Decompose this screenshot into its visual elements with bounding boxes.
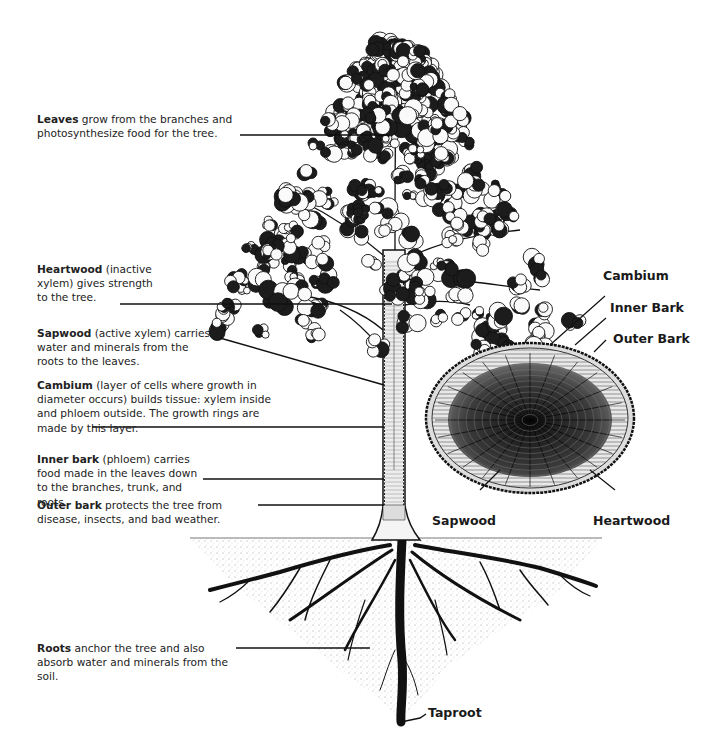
annotation-heartwood: Heartwood (inactive xylem) gives strengt… <box>37 262 157 305</box>
annotation-sapwood: Sapwood (active xylem) carries water and… <box>37 326 217 369</box>
leaf-cluster <box>305 253 334 271</box>
leaf-cluster <box>396 310 426 333</box>
label-outer-bark: Outer Bark <box>613 331 690 346</box>
label-heartwood: Heartwood <box>593 513 670 528</box>
leaf-cluster <box>561 313 586 331</box>
leaf-cluster <box>510 297 529 315</box>
label-inner-bark: Inner Bark <box>610 300 684 315</box>
label-taproot: Taproot <box>428 705 482 720</box>
leaf-cluster <box>263 216 278 231</box>
leaf-cluster <box>299 209 323 229</box>
annotation-leaves: Leaves grow from the branches and photos… <box>37 112 247 140</box>
leaf-cluster <box>431 309 448 327</box>
leaf-cluster <box>446 287 473 303</box>
annotation-cambium: Cambium (layer of cells where growth in … <box>37 378 282 435</box>
leaf-cluster <box>252 324 269 338</box>
term-leaves: Leaves <box>37 113 78 125</box>
term-cambium: Cambium <box>37 379 93 391</box>
term-sapwood: Sapwood <box>37 327 91 339</box>
leaf-cluster <box>362 254 382 270</box>
annotation-outer-bark: Outer bark protects the tree from diseas… <box>37 498 262 526</box>
leaf-cluster <box>488 180 500 197</box>
leaf-cluster <box>375 224 392 238</box>
annotation-roots: Roots anchor the tree and also absorb wa… <box>37 641 242 684</box>
leaf-cluster <box>360 107 386 124</box>
label-sapwood: Sapwood <box>432 513 496 528</box>
tree-illustration <box>0 0 717 738</box>
leaf-cluster <box>369 187 384 198</box>
term-outer-bark: Outer bark <box>37 499 102 511</box>
leaf-cluster <box>452 308 471 326</box>
label-cambium: Cambium <box>603 268 669 283</box>
leaf-cluster <box>488 302 513 330</box>
leaf-cluster <box>430 258 446 270</box>
term-inner-bark: Inner bark <box>37 453 99 465</box>
term-roots: Roots <box>37 642 71 654</box>
leaf-cluster <box>442 263 476 288</box>
leaf-cluster <box>530 263 549 287</box>
trunk-cross-section <box>426 343 634 493</box>
term-heartwood: Heartwood <box>37 263 102 275</box>
leaf-cluster <box>297 165 317 181</box>
